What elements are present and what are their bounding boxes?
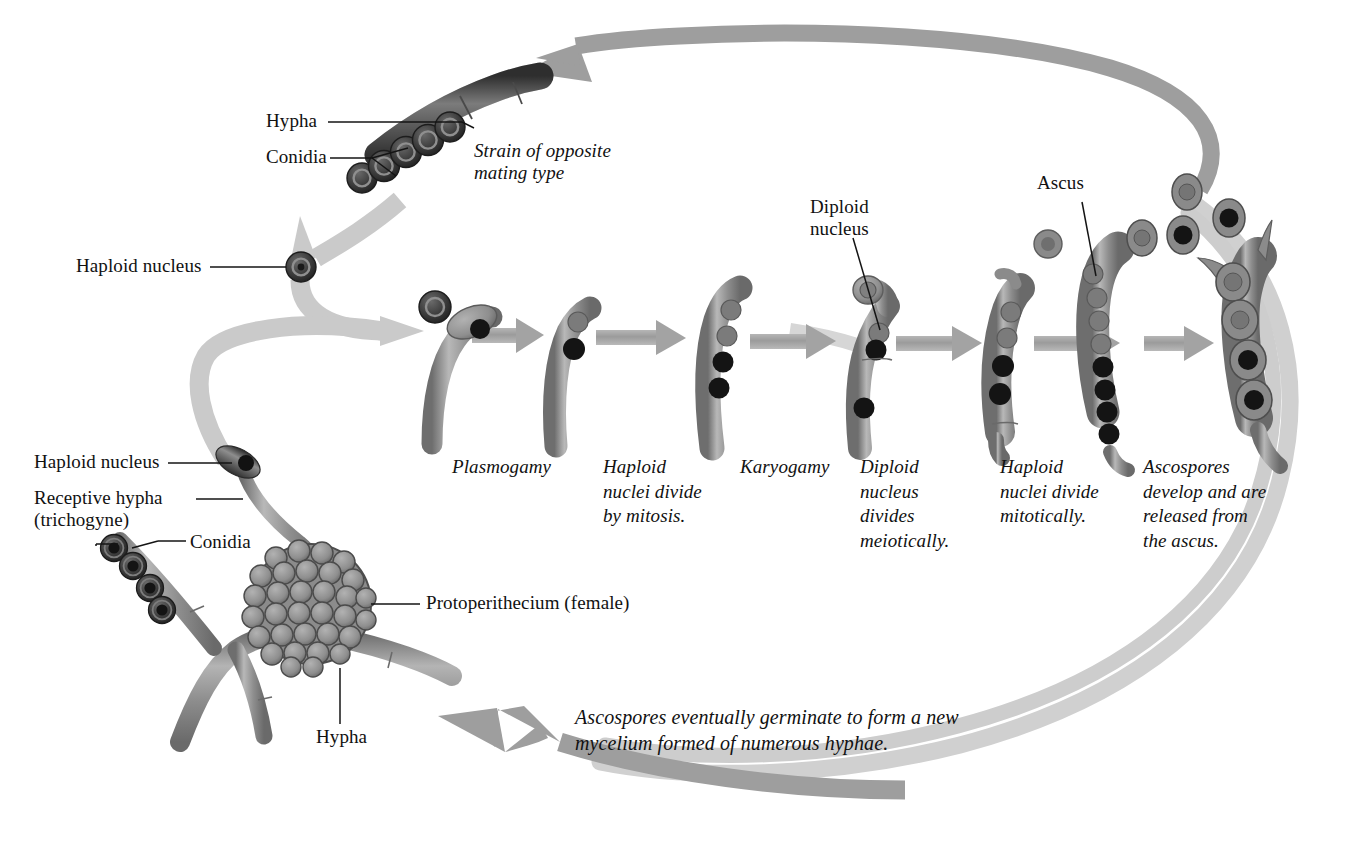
top-return-arrow [524,33,1211,190]
stage-arrow-6 [1144,326,1214,361]
stage-label-haploid-mitosis: Haploid nuclei divide by mitosis. [603,455,702,529]
stage-arrow-4 [896,326,982,361]
stage-5-haploid-mitotic [989,273,1021,458]
label-conidia-top: Conidia [266,146,327,168]
protoperithecium [242,540,376,677]
label-diploid-nucleus: Diploid nucleus [810,196,869,240]
free-conidium-upper [286,252,316,282]
stage-label-karyogamy: Karyogamy [740,455,830,480]
stage-label-meiosis: Diploid nucleus divides meiotically. [860,455,949,554]
stage-2-haploid-mitosis [555,308,591,446]
stage-1-plasmogamy [419,291,502,444]
label-protoperithecium: Protoperithecium (female) [426,592,630,614]
stage-label-plasmogamy: Plasmogamy [452,455,551,480]
stage-arrow-2 [596,320,686,355]
label-strain-opposite-mating-type: Strain of opposite mating type [474,140,611,184]
label-hypha-bottom: Hypha [316,726,367,748]
label-ascus: Ascus [1037,172,1084,194]
label-haploid-nucleus-upper: Haploid nucleus [76,255,202,277]
stage-label-ascospores: Ascospores develop and are released from… [1143,455,1266,554]
stage-label-haploid-mitotic: Haploid nuclei divide mitotically. [1000,455,1099,529]
ascospore-free-2 [1127,220,1157,256]
fusing-conidium [419,291,451,323]
label-conidia-lower: Conidia [190,531,251,553]
stage-3-karyogamy [708,288,741,448]
label-receptive-hypha: Receptive hypha (trichogyne) [34,487,163,531]
label-haploid-nucleus-lower: Haploid nucleus [34,451,160,473]
caption-germination: Ascospores eventually germinate to form … [575,704,959,757]
ascospore-free-1 [1172,174,1202,210]
life-cycle-figure: Hypha Conidia Strain of opposite mating … [0,0,1351,855]
ascospore-free-3 [1167,216,1199,254]
label-hypha-top: Hypha [266,110,317,132]
ascospore-free-4 [1213,199,1245,237]
